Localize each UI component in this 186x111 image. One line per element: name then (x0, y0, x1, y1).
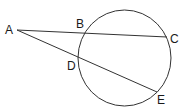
point-label-e: E (157, 93, 165, 107)
point-label-b: B (76, 17, 84, 31)
point-label-d: D (67, 59, 76, 73)
secant-diagram: A B C D E (0, 0, 186, 111)
secant-line-ade (17, 30, 157, 92)
secant-line-abc (17, 30, 167, 37)
point-label-c: C (170, 32, 179, 46)
point-label-a: A (5, 23, 13, 37)
